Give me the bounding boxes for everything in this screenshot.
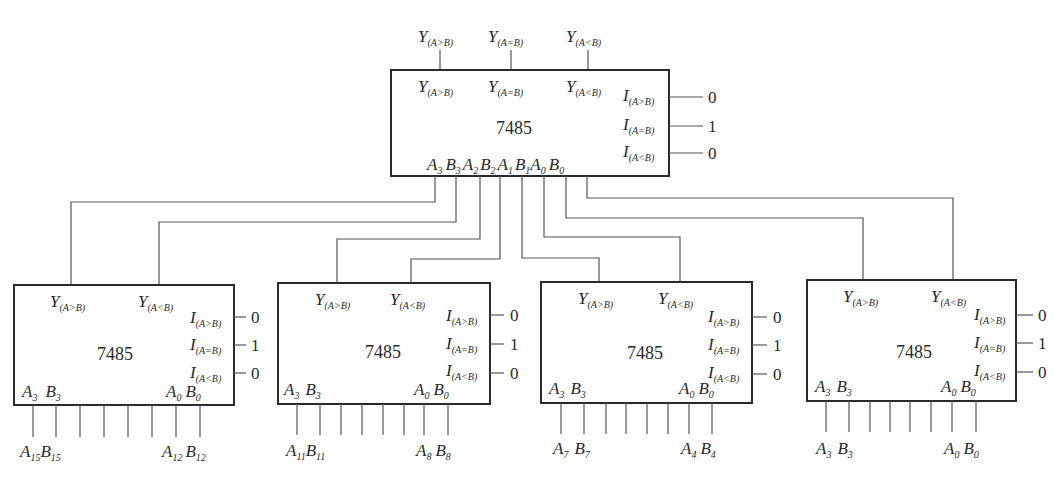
cascade-value: 0 <box>1038 363 1047 382</box>
input-pins <box>561 403 712 434</box>
cascade-value: 1 <box>1038 334 1047 353</box>
chip-bits-7-4: Y(A>B) Y(A<B) 7485 I(A>B) I(A=B) I(A<B) … <box>541 282 782 460</box>
cascade-value: 0 <box>1038 306 1047 325</box>
cascade-value: 0 <box>510 364 519 383</box>
chip-label: 7485 <box>896 342 932 362</box>
ext-label-a8b8: A8B8 <box>415 441 451 462</box>
ext-label-a0b0: A0B0 <box>943 439 979 460</box>
chip-bits-3-0: Y(A>B) Y(A<B) 7485 I(A>B) I(A=B) I(A<B) … <box>807 280 1047 460</box>
ext-label-a12b12: A12B12 <box>161 442 206 463</box>
ext-label-a3b3: A3B3 <box>815 439 853 460</box>
chip-bits-15-12: Y(A>B) Y(A<B) 7485 I(A>B) I(A=B) I(A<B) … <box>14 285 260 463</box>
ext-label-a11b11: A11B11 <box>285 441 325 462</box>
cascade-value: 1 <box>251 336 260 355</box>
cascade-value: 0 <box>251 308 260 327</box>
interconnect-wires <box>71 176 953 285</box>
wire-b1 <box>544 176 680 282</box>
cascade-value: 0 <box>773 308 782 327</box>
input-pins <box>297 404 448 435</box>
comparator-diagram: Y(A>B) Y(A=B) Y(A<B) Y(A>B) Y(A=B) Y(A<B… <box>0 0 1063 482</box>
ext-label-a7b7: A7B7 <box>552 439 591 460</box>
ext-label-a4b4: A4B4 <box>680 439 716 460</box>
cascade-value: 0 <box>510 306 519 325</box>
wire-a3 <box>71 176 435 285</box>
cascade-value-gt: 0 <box>708 88 717 107</box>
wire-a2 <box>337 176 480 283</box>
chip-label: 7485 <box>496 118 532 138</box>
cascade-value: 0 <box>251 364 260 383</box>
cascade-value: 1 <box>510 335 519 354</box>
cascade-value-eq: 1 <box>708 117 717 136</box>
cascade-value: 1 <box>773 336 782 355</box>
wire-b0 <box>587 176 953 280</box>
wire-a0 <box>566 176 863 280</box>
cascade-value-lt: 0 <box>708 144 717 163</box>
chip-bits-11-8: Y(A>B) Y(A<B) 7485 I(A>B) I(A=B) I(A<B) … <box>278 283 519 462</box>
ext-output-gt: Y(A>B) <box>418 27 454 49</box>
cascade-value: 0 <box>773 365 782 384</box>
ext-output-lt: Y(A<B) <box>566 27 602 49</box>
chip-label: 7485 <box>365 342 401 362</box>
top-chip: Y(A>B) Y(A=B) Y(A<B) Y(A>B) Y(A=B) Y(A<B… <box>391 27 717 176</box>
chip-label: 7485 <box>627 343 663 363</box>
input-pins <box>33 405 200 437</box>
chip-label: 7485 <box>97 344 133 364</box>
ext-output-eq: Y(A=B) <box>488 27 524 49</box>
ext-label-a15b15: A15B15 <box>19 442 61 463</box>
input-pins <box>826 401 976 432</box>
